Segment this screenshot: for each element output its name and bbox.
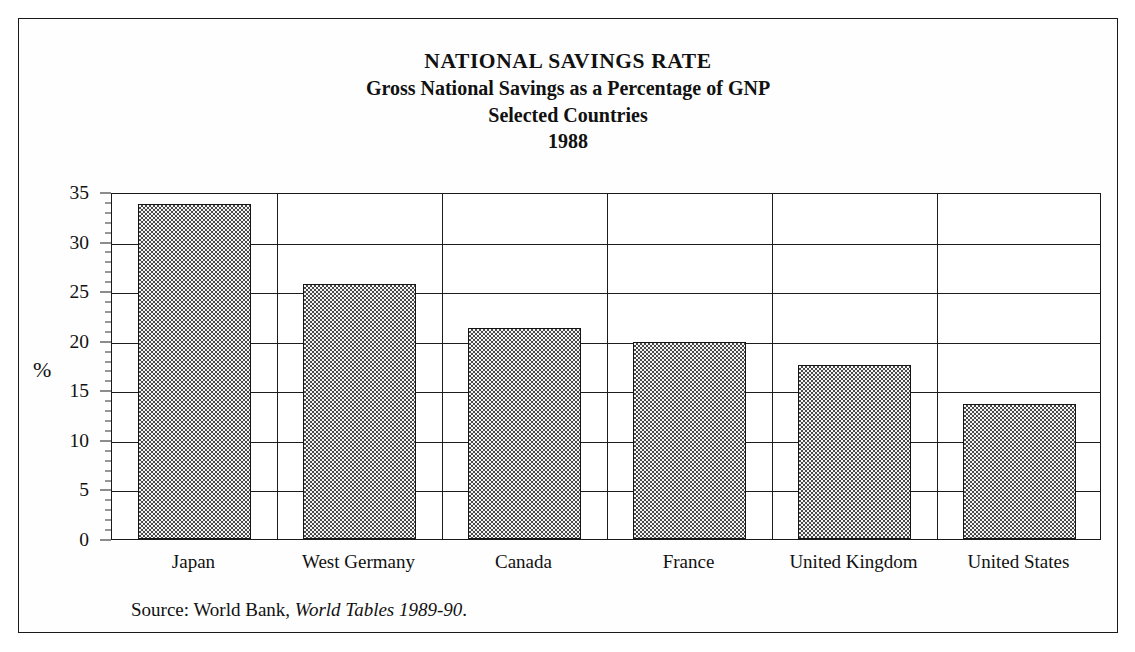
y-tick-label: 25: [70, 282, 90, 302]
y-tick-major: [100, 391, 111, 392]
y-tick-major: [100, 193, 111, 194]
figure-frame: NATIONAL SAVINGS RATE Gross National Sav…: [18, 18, 1118, 633]
bar-united-states: [963, 404, 1075, 539]
y-tick-label: 30: [70, 233, 90, 253]
bars-layer: [112, 194, 1100, 539]
y-tick-major: [100, 540, 111, 541]
bar-france: [633, 342, 745, 539]
y-tick-label: 35: [70, 183, 90, 203]
chart-year: 1988: [19, 128, 1117, 154]
y-tick-major: [100, 341, 111, 342]
x-tick-label: United Kingdom: [771, 551, 936, 573]
y-tick-label: 20: [70, 332, 90, 352]
y-tick-label: 10: [70, 431, 90, 451]
x-tick-label: United States: [936, 551, 1101, 573]
bar-canada: [468, 328, 580, 539]
title-block: NATIONAL SAVINGS RATE Gross National Sav…: [19, 47, 1117, 155]
source-publication: World Tables 1989-90: [295, 599, 463, 620]
y-tick-label: 15: [70, 382, 90, 402]
y-tick-major: [100, 292, 111, 293]
source-prefix: Source: World Bank,: [131, 599, 290, 620]
y-tick-major: [100, 242, 111, 243]
y-tick-label: 5: [79, 481, 89, 501]
x-tick-label: Japan: [111, 551, 276, 573]
source-note: Source: World Bank, World Tables 1989-90…: [131, 599, 467, 621]
y-tick-major: [100, 440, 111, 441]
x-tick-label: France: [606, 551, 771, 573]
x-tick-label: Canada: [441, 551, 606, 573]
chart-subtitle-secondary: Selected Countries: [19, 102, 1117, 128]
source-suffix: .: [462, 599, 467, 620]
y-tick-label: 0: [79, 530, 89, 550]
x-axis-labels: JapanWest GermanyCanadaFranceUnited King…: [111, 551, 1101, 585]
x-tick-label: West Germany: [276, 551, 441, 573]
chart-subtitle: Gross National Savings as a Percentage o…: [19, 75, 1117, 101]
page-title: NATIONAL SAVINGS RATE: [19, 47, 1117, 75]
plot-area: [111, 193, 1101, 540]
bar-japan: [138, 204, 250, 539]
y-axis-title: %: [33, 357, 51, 383]
bar-west-germany: [303, 284, 415, 539]
bar-united-kingdom: [798, 365, 910, 539]
y-tick-major: [100, 490, 111, 491]
